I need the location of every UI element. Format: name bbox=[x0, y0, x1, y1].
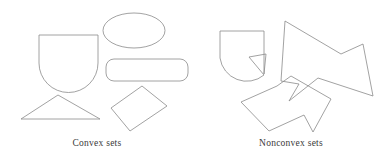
notched-shield-shape bbox=[220, 31, 266, 81]
ellipse-shape bbox=[103, 13, 165, 48]
tilted-rectangle-shape bbox=[111, 86, 167, 131]
nonconvex-sets-caption: Nonconvex sets bbox=[194, 138, 388, 148]
rounded-rectangle-shape bbox=[106, 59, 188, 81]
block-arrow-shape bbox=[241, 76, 331, 132]
convex-sets-caption: Convex sets bbox=[0, 138, 194, 148]
triangle-shape bbox=[21, 95, 100, 119]
convex-shapes-group bbox=[21, 13, 188, 131]
convex-nonconvex-figure: Convex sets Nonconvex sets bbox=[0, 0, 388, 164]
nonconvex-shapes-group bbox=[220, 21, 373, 132]
star-polygon-shape bbox=[281, 21, 373, 101]
shield-shape bbox=[39, 35, 98, 93]
